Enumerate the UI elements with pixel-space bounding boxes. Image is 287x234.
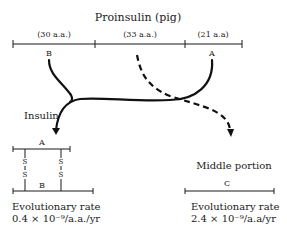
- svg-text:S: S: [59, 171, 64, 179]
- insulin-arrowhead-icon: [52, 128, 60, 135]
- svg-text:S: S: [23, 171, 28, 179]
- insulin-label: Insulin: [24, 110, 59, 121]
- chain-b-curve: [49, 60, 72, 102]
- diagram-title: Proinsulin (pig): [95, 11, 181, 24]
- proinsulin-diagram: Proinsulin (pig) (30 a.a.) (33 a.a.) (21…: [0, 0, 287, 234]
- middle-portion-label: Middle portion: [196, 160, 272, 171]
- insulin-chain-a-label: A: [38, 138, 45, 147]
- chain-a-curve: [56, 60, 212, 130]
- proinsulin-bar: [13, 40, 242, 48]
- svg-text:S: S: [59, 158, 64, 166]
- svg-text:S: S: [23, 158, 28, 166]
- insulin-chain-b-label: B: [39, 181, 45, 190]
- segment-b-length: (30 a.a.): [37, 30, 71, 39]
- segment-a-length: (21 a.a): [197, 30, 228, 39]
- chain-c-label: C: [224, 179, 230, 188]
- middle-arrowhead-icon: [227, 129, 234, 137]
- middle-portion-curve: [137, 55, 230, 130]
- middle-rate-value: 2.4 × 10⁻⁹/a.a/yr: [191, 213, 276, 224]
- chain-a-label: A: [208, 49, 215, 58]
- middle-rate-label: Evolutionary rate: [191, 201, 280, 212]
- chain-c-bar: [185, 188, 274, 194]
- insulin-rate-label: Evolutionary rate: [12, 201, 101, 212]
- segment-c-length: (33 a.a.): [123, 30, 157, 39]
- insulin-rate-value: 0.4 × 10⁻⁹/a.a./yr: [12, 213, 100, 224]
- chain-b-label: B: [46, 49, 52, 58]
